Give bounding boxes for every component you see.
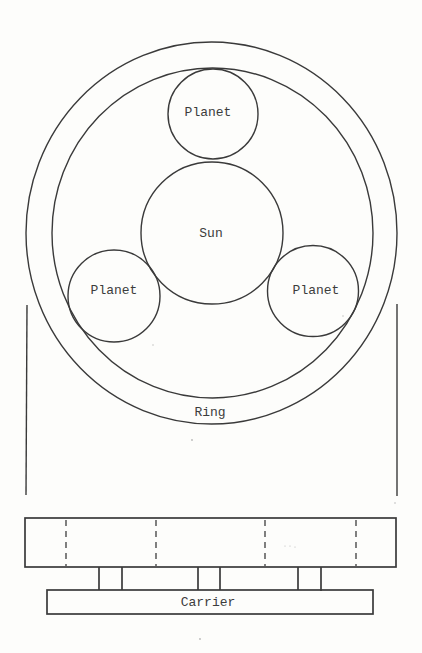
projection-line-left <box>26 305 27 495</box>
scan-noise <box>152 315 396 640</box>
projection-lines <box>26 304 397 496</box>
side-view-block <box>25 518 396 567</box>
carrier-label: Carrier <box>181 595 236 610</box>
ring-label: Ring <box>194 405 225 420</box>
planet-gear-top: Planet <box>168 69 258 159</box>
planet-pins <box>99 567 321 591</box>
sun-gear: Sun <box>141 162 283 304</box>
side-view-rect <box>25 518 396 567</box>
planet-gear-right: Planet <box>268 246 359 337</box>
planet-gear-left: Planet <box>68 250 160 342</box>
planet-top-label: Planet <box>185 105 232 120</box>
planetary-gear-diagram: Ring Planet Sun Planet Planet <box>0 0 422 653</box>
carrier: Carrier <box>47 590 373 614</box>
planet-right-label: Planet <box>293 283 340 298</box>
planet-left-label: Planet <box>91 283 138 298</box>
sun-label: Sun <box>199 226 222 241</box>
